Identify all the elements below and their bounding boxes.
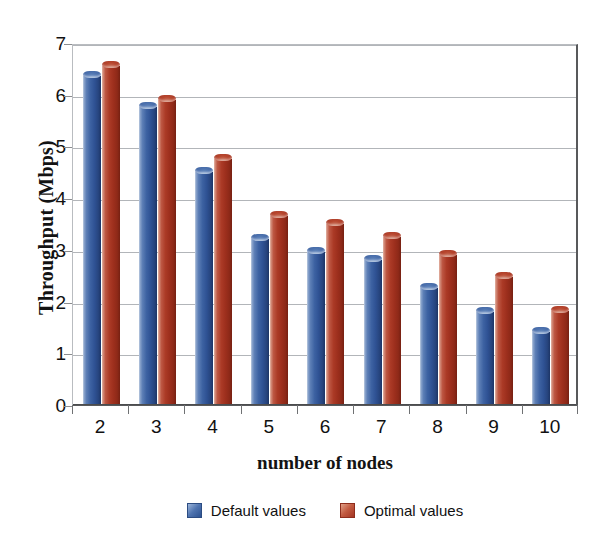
bar-optimal-values-10 (551, 306, 569, 405)
bar-optimal-values-8 (439, 250, 457, 405)
plot-area (72, 44, 578, 406)
bar-default-values-10 (532, 327, 550, 405)
y-axis-tick-label: 3 (40, 241, 66, 261)
bar-default-values-7 (364, 255, 382, 405)
bar-group (298, 45, 354, 405)
bar-cap (158, 95, 176, 102)
bar-cap (383, 232, 401, 239)
bar-shaft (420, 288, 438, 405)
bar-shaft (139, 107, 157, 405)
bar-shaft (195, 172, 213, 405)
y-axis-tick-label: 5 (40, 137, 66, 157)
x-axis-tick-mark (409, 405, 410, 414)
x-axis-tick-label: 9 (488, 416, 499, 438)
x-axis-tick-label: 8 (432, 416, 443, 438)
bar-cap (551, 306, 569, 313)
bar-group (523, 45, 579, 405)
red-square-icon (340, 503, 355, 518)
x-axis-tick-mark (522, 405, 523, 414)
bar-cap (214, 154, 232, 161)
bar-shaft (326, 224, 344, 405)
bar-cap (495, 272, 513, 279)
bar-shaft (270, 216, 288, 405)
x-axis-tick-mark (297, 405, 298, 414)
bar-group (242, 45, 298, 405)
x-axis-tick-mark (128, 405, 129, 414)
x-axis-tick-mark (241, 405, 242, 414)
bar-group (73, 45, 129, 405)
bars-layer (73, 45, 576, 405)
x-axis-tick-label: 4 (207, 416, 218, 438)
bar-optimal-values-9 (495, 272, 513, 405)
bar-group (129, 45, 185, 405)
bar-chart: Throughput (Mbps) 01234567 2345678910 nu… (0, 0, 608, 543)
bar-optimal-values-4 (214, 154, 232, 405)
x-axis-tick-label: 3 (151, 416, 162, 438)
bar-cap (326, 219, 344, 226)
x-axis-tick-marks (72, 405, 578, 414)
x-axis-tick-mark (577, 405, 578, 414)
bar-default-values-2 (83, 71, 101, 405)
bar-cap (195, 167, 213, 174)
bar-group (354, 45, 410, 405)
x-axis-tick-mark (72, 405, 73, 414)
bar-shaft (476, 312, 494, 405)
legend-entry[interactable]: Default values (187, 502, 306, 519)
bar-optimal-values-3 (158, 95, 176, 405)
y-axis-tick-label: 4 (40, 189, 66, 209)
bar-cap (83, 71, 101, 78)
bar-shaft (307, 252, 325, 405)
y-axis-tick-labels: 01234567 (40, 34, 66, 416)
bar-cap (476, 307, 494, 314)
bar-shaft (158, 100, 176, 405)
y-axis-tick-label: 1 (40, 344, 66, 364)
bar-optimal-values-2 (102, 61, 120, 405)
y-axis-tick-label: 2 (40, 293, 66, 313)
bar-optimal-values-6 (326, 219, 344, 405)
x-axis-tick-mark (184, 405, 185, 414)
bar-optimal-values-5 (270, 211, 288, 405)
x-axis-tick-label: 10 (539, 416, 560, 438)
x-axis-title: number of nodes (72, 452, 578, 474)
bar-cap (364, 255, 382, 262)
bar-shaft (495, 277, 513, 405)
bar-shaft (364, 260, 382, 405)
bar-cap (439, 250, 457, 257)
x-axis-tick-label: 7 (376, 416, 387, 438)
chart-legend: Default valuesOptimal values (72, 497, 578, 523)
y-axis-tick-label: 7 (40, 34, 66, 54)
bar-optimal-values-7 (383, 232, 401, 405)
y-axis-tick-label: 6 (40, 86, 66, 106)
bar-default-values-5 (251, 234, 269, 405)
x-axis-tick-mark (353, 405, 354, 414)
bar-shaft (251, 239, 269, 405)
bar-default-values-9 (476, 307, 494, 405)
bar-cap (102, 61, 120, 68)
blue-square-icon (187, 503, 202, 518)
bar-group (467, 45, 523, 405)
x-axis-tick-mark (466, 405, 467, 414)
y-axis-tick-label: 0 (40, 396, 66, 416)
bar-default-values-3 (139, 102, 157, 405)
bar-shaft (83, 76, 101, 405)
legend-label: Default values (211, 502, 306, 519)
bar-default-values-4 (195, 167, 213, 405)
bar-shaft (532, 332, 550, 405)
bar-default-values-8 (420, 283, 438, 405)
x-axis-tick-labels: 2345678910 (72, 416, 578, 444)
bar-cap (270, 211, 288, 218)
bar-group (185, 45, 241, 405)
bar-shaft (383, 237, 401, 405)
bar-shaft (214, 159, 232, 405)
bar-default-values-6 (307, 247, 325, 405)
legend-label: Optimal values (364, 502, 463, 519)
x-axis-tick-label: 6 (320, 416, 331, 438)
legend-entry[interactable]: Optimal values (340, 502, 463, 519)
x-axis-tick-label: 5 (263, 416, 274, 438)
bar-shaft (551, 311, 569, 405)
bar-shaft (439, 255, 457, 405)
bar-shaft (102, 66, 120, 405)
x-axis-tick-label: 2 (95, 416, 106, 438)
bar-group (410, 45, 466, 405)
